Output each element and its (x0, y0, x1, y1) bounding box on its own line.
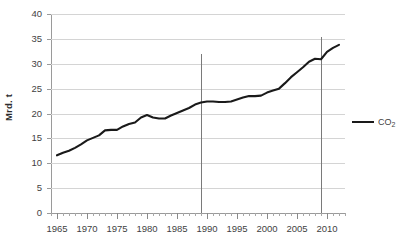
x-minor-tick-1976 (123, 213, 124, 216)
x-minor-tick-2013 (345, 213, 346, 216)
x-minor-tick-1969 (81, 213, 82, 216)
y-tick-label-10: 10 (2, 158, 42, 168)
x-minor-tick-2012 (339, 213, 340, 216)
x-minor-tick-1983 (165, 213, 166, 216)
x-minor-tick-2008 (315, 213, 316, 216)
y-tick-label-20: 20 (2, 109, 42, 119)
x-major-tick-1975 (117, 213, 118, 219)
x-minor-tick-1997 (249, 213, 250, 216)
legend-label-co2: CO2 (378, 117, 395, 127)
legend: CO2 (352, 117, 395, 127)
x-minor-tick-2002 (279, 213, 280, 216)
x-minor-tick-1986 (183, 213, 184, 216)
x-minor-tick-2006 (303, 213, 304, 216)
x-minor-tick-1967 (69, 213, 70, 216)
x-minor-tick-1994 (231, 213, 232, 216)
y-tick-label-30: 30 (2, 59, 42, 69)
x-minor-tick-1989 (201, 213, 202, 216)
x-minor-tick-1977 (129, 213, 130, 216)
x-major-tick-1995 (237, 213, 238, 219)
x-major-tick-1970 (87, 213, 88, 219)
x-minor-tick-2003 (285, 213, 286, 216)
y-tick-label-5: 5 (2, 183, 42, 193)
x-minor-tick-1999 (261, 213, 262, 216)
x-minor-tick-1964 (51, 213, 52, 216)
x-minor-tick-1991 (213, 213, 214, 216)
x-minor-tick-1987 (189, 213, 190, 216)
x-minor-tick-1974 (111, 213, 112, 216)
x-major-tick-1980 (147, 213, 148, 219)
x-minor-tick-1968 (75, 213, 76, 216)
x-minor-tick-1993 (225, 213, 226, 216)
x-minor-tick-1982 (159, 213, 160, 216)
x-major-tick-2010 (327, 213, 328, 219)
x-tick-label-2010: 2010 (307, 224, 347, 234)
y-tick-label-40: 40 (2, 9, 42, 19)
x-minor-tick-1966 (63, 213, 64, 216)
x-minor-tick-1972 (99, 213, 100, 216)
legend-swatch-co2 (352, 121, 374, 124)
y-tick-label-15: 15 (2, 133, 42, 143)
x-minor-tick-1979 (141, 213, 142, 216)
x-major-tick-1965 (57, 213, 58, 219)
x-minor-tick-1988 (195, 213, 196, 216)
x-minor-tick-1984 (171, 213, 172, 216)
x-minor-tick-1981 (153, 213, 154, 216)
co2-polyline (57, 45, 339, 155)
x-major-tick-1990 (207, 213, 208, 219)
x-minor-tick-1992 (219, 213, 220, 216)
x-minor-tick-1996 (243, 213, 244, 216)
x-minor-tick-2001 (273, 213, 274, 216)
x-minor-tick-1978 (135, 213, 136, 216)
x-minor-tick-1971 (93, 213, 94, 216)
x-minor-tick-2007 (309, 213, 310, 216)
legend-label-subscript: 2 (392, 121, 396, 128)
x-major-tick-1985 (177, 213, 178, 219)
y-tick-label-35: 35 (2, 34, 42, 44)
x-minor-tick-1998 (255, 213, 256, 216)
x-minor-tick-2011 (333, 213, 334, 216)
y-tick-label-0: 0 (2, 208, 42, 218)
x-major-tick-2005 (297, 213, 298, 219)
y-tick-label-25: 25 (2, 84, 42, 94)
x-minor-tick-2004 (291, 213, 292, 216)
gridline-y-0 (51, 213, 345, 214)
co2-emissions-line-chart: Mrd. t 0510152025303540 1965197019751980… (0, 0, 410, 250)
x-minor-tick-2009 (321, 213, 322, 216)
series-co2-line (51, 14, 345, 213)
x-minor-tick-1973 (105, 213, 106, 216)
x-major-tick-2000 (267, 213, 268, 219)
